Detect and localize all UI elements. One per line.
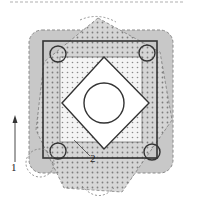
label-2: 2 [90, 153, 96, 164]
label-1: 1 [11, 162, 17, 173]
diagram-canvas [0, 0, 197, 206]
arrow-up-icon [13, 115, 18, 162]
center-circle [84, 83, 124, 123]
